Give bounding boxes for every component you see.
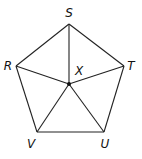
label-x: X xyxy=(74,64,84,78)
pentagon-diagram: S T U V R X xyxy=(0,0,142,159)
label-r: R xyxy=(4,59,12,73)
label-v: V xyxy=(27,137,36,151)
segment-xv xyxy=(37,84,69,132)
label-s: S xyxy=(65,6,73,20)
label-u: U xyxy=(101,137,110,151)
label-t: T xyxy=(127,59,136,73)
segment-rs xyxy=(16,24,69,66)
segment-vr xyxy=(16,66,37,132)
pentagon-edges xyxy=(16,24,124,132)
segment-st xyxy=(69,24,124,66)
center-point-x xyxy=(67,82,71,86)
segment-xr xyxy=(16,66,69,84)
vertex-labels: S T U V R X xyxy=(4,6,137,151)
segment-tu xyxy=(104,66,124,132)
segment-xu xyxy=(69,84,104,132)
